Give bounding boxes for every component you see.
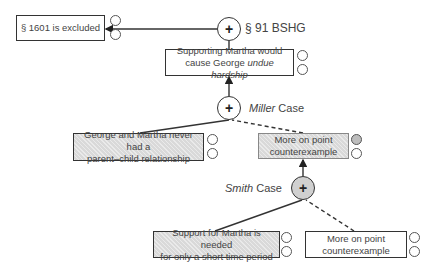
edge-counter2-to-smith bbox=[306, 200, 354, 231]
no-relationship-line2: parent–child relationship bbox=[87, 153, 190, 165]
counterexample-2-line1: More on point bbox=[327, 233, 385, 245]
status-dot-reject[interactable] bbox=[351, 148, 362, 159]
edge-counter1-to-miller bbox=[232, 120, 303, 133]
short-time-box[interactable]: Support for Martha is needed for only a … bbox=[153, 231, 280, 258]
counterexample-2-line2: counterexample bbox=[322, 245, 390, 257]
counterexample-2-box[interactable]: More on point counterexample bbox=[305, 231, 407, 258]
status-dot-accept[interactable] bbox=[409, 232, 420, 243]
status-dot-reject[interactable] bbox=[207, 148, 218, 159]
conclusion-1601-box[interactable]: § 1601 is excluded bbox=[16, 15, 105, 41]
smith-label-italic: Smith bbox=[225, 182, 253, 194]
smith-case-label: Smith Case bbox=[225, 182, 282, 194]
status-dot-accept[interactable] bbox=[297, 50, 308, 61]
status-dot-accept[interactable] bbox=[207, 134, 218, 145]
counterexample-1-line1: More on point bbox=[274, 134, 332, 146]
status-dot-reject[interactable] bbox=[110, 29, 121, 40]
status-dot-reject[interactable] bbox=[409, 246, 420, 257]
no-relationship-box[interactable]: George and Martha never had a parent–chi… bbox=[73, 133, 204, 161]
status-dot-reject[interactable] bbox=[281, 246, 292, 257]
short-time-line1: Support for Martha is needed bbox=[157, 227, 276, 251]
counterexample-1-line2: counterexample bbox=[270, 146, 338, 158]
short-time-line2: for only a short time period bbox=[160, 251, 272, 263]
conclusion-1601-text: § 1601 is excluded bbox=[21, 22, 100, 34]
miller-label-italic: Miller bbox=[249, 102, 275, 114]
miller-case-node[interactable]: + bbox=[217, 96, 241, 120]
status-dot-accept[interactable] bbox=[281, 232, 292, 243]
miller-label-plain: Case bbox=[275, 102, 304, 114]
plus-icon: + bbox=[299, 180, 307, 196]
counterexample-1-box[interactable]: More on point counterexample bbox=[258, 133, 349, 159]
miller-case-label: Miller Case bbox=[249, 102, 304, 114]
smith-case-node[interactable]: + bbox=[291, 176, 315, 200]
plus-icon: + bbox=[225, 21, 233, 37]
status-dot-accept-filled[interactable] bbox=[351, 134, 362, 145]
hardship-line2-plain: cause George bbox=[185, 57, 247, 68]
rule-bshg-label: § 91 BSHG bbox=[245, 21, 306, 35]
hardship-line1: Supporting Martha would bbox=[177, 45, 283, 57]
plus-icon: + bbox=[225, 100, 233, 116]
no-relationship-line1: George and Martha never had a bbox=[77, 129, 200, 153]
hardship-box[interactable]: Supporting Martha would cause George und… bbox=[165, 49, 294, 76]
hardship-line2: cause George undue hardship bbox=[169, 57, 290, 81]
status-dot-reject[interactable] bbox=[297, 64, 308, 75]
rule-bshg-node[interactable]: + bbox=[217, 17, 241, 41]
smith-label-plain: Case bbox=[253, 182, 282, 194]
status-dot-accept[interactable] bbox=[110, 15, 121, 26]
